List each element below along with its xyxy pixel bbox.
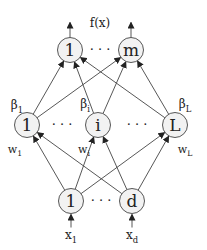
edge-hidden-hL-output-om <box>138 61 169 114</box>
edge-input-id-hidden-h1 <box>38 133 122 194</box>
input-ellipsis: · · · <box>91 193 112 208</box>
elm-network-diagram: 1m1iL1d· · ·· · ·· · ·· · ·f(x)β1βiβLw1w… <box>0 0 207 250</box>
output-ellipsis: · · · <box>90 42 111 57</box>
edge-input-i1-hidden-hL <box>81 133 164 194</box>
hidden-node-label: 1 <box>22 115 33 135</box>
beta-label-L: βL <box>179 97 192 114</box>
network-nodes <box>15 38 188 214</box>
input-label-id: xd <box>126 228 139 245</box>
input-node-label: 1 <box>66 191 77 211</box>
output-node-label: 1 <box>65 40 76 60</box>
w-label-1: w1 <box>8 143 22 158</box>
input-label-i1: x1 <box>65 228 77 245</box>
w-label-L: wL <box>178 143 193 158</box>
edge-input-i1-hidden-h1 <box>34 136 65 190</box>
output-function-label: f(x) <box>90 16 111 30</box>
input-node-label: d <box>127 191 138 211</box>
edge-input-id-hidden-hL <box>138 136 168 190</box>
output-node-label: m <box>123 40 139 60</box>
network-svg: 1m1iL1d· · ·· · ·· · ·· · ·f(x)β1βiβLw1w… <box>0 0 207 250</box>
hidden-ellipsis-right: · · · <box>127 117 148 132</box>
beta-label-1: β1 <box>11 98 23 115</box>
hidden-node-label: i <box>95 115 101 135</box>
edge-hidden-h1-output-o1 <box>33 61 63 114</box>
hidden-node-label: L <box>169 115 180 135</box>
w-label-i: wi <box>78 143 90 158</box>
edge-hidden-hL-output-o1 <box>81 58 165 118</box>
edge-hidden-h1-output-om <box>37 58 120 118</box>
hidden-ellipsis-left: · · · <box>52 117 73 132</box>
